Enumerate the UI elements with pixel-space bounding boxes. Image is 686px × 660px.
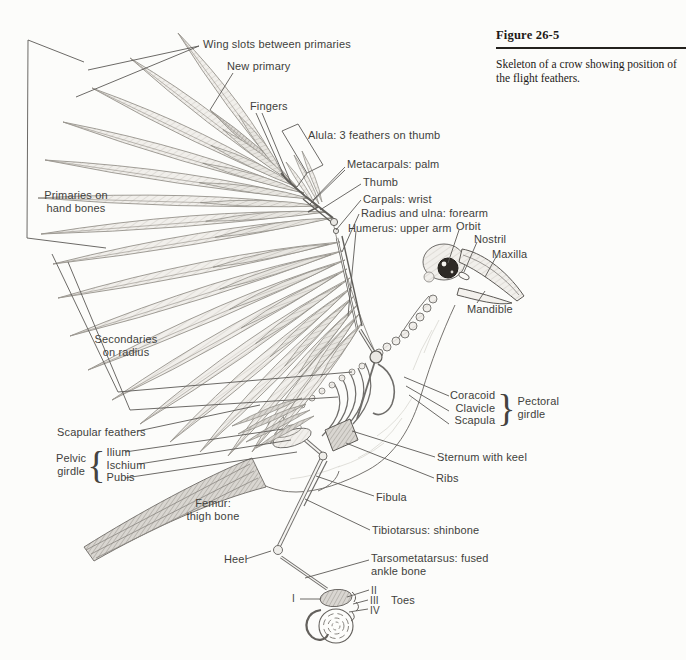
label-pubis: Pubis (107, 471, 146, 484)
label-tarsometatarsus: Tarsometatarsus: fused ankle bone (371, 552, 489, 577)
label-primaries: Primaries on hand bones (42, 189, 110, 214)
label-fingers: Fingers (250, 100, 288, 113)
figure-caption: Skeleton of a crow showing position of t… (496, 57, 686, 85)
label-thumb: Thumb (363, 176, 398, 189)
figure-caption-block: Figure 26-5 Skeleton of a crow showing p… (496, 28, 686, 85)
figure-title: Figure 26-5 (496, 28, 686, 43)
label-femur: Femur: thigh bone (181, 497, 245, 522)
pectoral-brace: } (495, 390, 517, 426)
label-tibiotarsus: Tibiotarsus: shinbone (372, 524, 479, 537)
label-fibula: Fibula (376, 491, 407, 504)
label-sternum: Sternum with keel (437, 451, 527, 464)
label-maxilla: Maxilla (492, 248, 527, 261)
pelvic-brace: { (86, 447, 106, 483)
label-orbit: Orbit (456, 220, 481, 233)
label-nostril: Nostril (474, 233, 506, 246)
label-scapula: Scapula (450, 414, 495, 427)
label-radius-ulna: Radius and ulna: forearm (361, 207, 488, 220)
label-carpals: Carpals: wrist (363, 193, 432, 206)
pectoral-girdle-group: Coracoid Clavicle Scapula } Pectoral gir… (450, 389, 559, 427)
label-pelvic-girdle: Pelvic girdle (56, 452, 86, 477)
label-heel: Heel (224, 553, 247, 566)
label-ribs: Ribs (436, 472, 459, 485)
crow-skeleton-illustration (0, 0, 686, 660)
label-clavicle: Clavicle (450, 402, 495, 415)
label-scapular-feathers: Scapular feathers (57, 426, 146, 439)
label-ischium: Ischium (107, 459, 146, 472)
label-toe-i: I (292, 593, 295, 604)
label-pectoral-girdle: Pectoral girdle (517, 395, 559, 420)
leg-bones (274, 432, 328, 589)
label-humerus: Humerus: upper arm (348, 222, 452, 235)
label-secondaries: Secondaries on radius (92, 333, 160, 358)
textbook-page: Wing slots between primaries New primary… (0, 0, 686, 660)
label-mandible: Mandible (467, 303, 513, 316)
label-coracoid: Coracoid (450, 389, 495, 402)
label-wing-slots: Wing slots between primaries (203, 38, 351, 51)
pelvic-girdle-group: Pelvic girdle { Ilium Ischium Pubis (56, 446, 145, 484)
figure-title-rule (496, 47, 686, 49)
label-metacarpals: Metacarpals: palm (347, 158, 439, 171)
label-new-primary: New primary (227, 60, 290, 73)
label-ilium: Ilium (107, 446, 146, 459)
label-alula: Alula: 3 feathers on thumb (308, 129, 440, 142)
wing-feathers (38, 33, 362, 456)
label-toe-iv: IV (370, 605, 380, 616)
label-toes: Toes (391, 594, 415, 607)
